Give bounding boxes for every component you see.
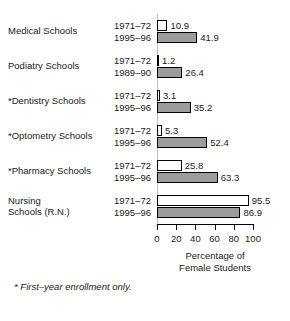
bar [157, 160, 182, 171]
axis-tick [195, 225, 196, 230]
axis-tick [253, 225, 254, 230]
period-label: 1971–72 [105, 55, 151, 67]
period-label: 1995–96 [105, 32, 151, 44]
axis-title-line-2: Female Students [150, 262, 280, 274]
period-label: 1995–96 [105, 102, 151, 114]
bar-value-label: 95.5 [252, 195, 271, 206]
period-label: 1971–72 [105, 125, 151, 137]
axis-tick [215, 225, 216, 230]
axis-tick-label: 100 [241, 233, 265, 244]
period-label: 1995–96 [105, 172, 151, 184]
category-label: Nursing Schools (R.N.) [8, 195, 108, 218]
bar [157, 125, 162, 136]
period-label: 1971–72 [105, 20, 151, 32]
bar-chart: Percentage of Female Students * First–ye… [0, 0, 290, 321]
axis-tick [176, 225, 177, 230]
axis-title-line-1: Percentage of [150, 250, 280, 262]
bar-value-label: 5.3 [165, 125, 178, 136]
bar-value-label: 26.4 [185, 67, 204, 78]
bar [157, 90, 160, 101]
period-label: 1971–72 [105, 195, 151, 207]
category-label: *Optometry Schools [8, 130, 108, 142]
bar [157, 55, 159, 66]
bar-value-label: 3.1 [163, 90, 176, 101]
bar-value-label: 1.2 [162, 55, 175, 66]
category-label: *Dentistry Schools [8, 95, 108, 107]
bar-value-label: 52.4 [210, 137, 229, 148]
period-label: 1995–96 [105, 137, 151, 149]
period-label: 1989–90 [105, 67, 151, 79]
bar-value-label: 25.8 [185, 160, 204, 171]
footnote: * First–year enrollment only. [14, 281, 132, 292]
bar [157, 207, 240, 218]
bar [157, 172, 218, 183]
bar [157, 32, 197, 43]
category-label: Medical Schools [8, 25, 108, 37]
bar-value-label: 35.2 [194, 102, 213, 113]
bar-value-label: 41.9 [200, 32, 219, 43]
bar [157, 20, 167, 31]
bar-value-label: 63.3 [221, 172, 240, 183]
bar [157, 137, 207, 148]
category-label: Podiatry Schools [8, 60, 108, 72]
period-label: 1971–72 [105, 160, 151, 172]
bar [157, 195, 249, 206]
period-label: 1971–72 [105, 90, 151, 102]
axis-tick [157, 225, 158, 230]
category-label: *Pharmacy Schools [8, 165, 108, 177]
bar [157, 67, 182, 78]
baseline-rule [157, 14, 158, 224]
bar [157, 102, 191, 113]
bar-value-label: 86.9 [243, 207, 262, 218]
bar-value-label: 10.9 [170, 20, 189, 31]
period-label: 1995–96 [105, 207, 151, 219]
axis-tick [234, 225, 235, 230]
x-axis-line [157, 224, 254, 225]
